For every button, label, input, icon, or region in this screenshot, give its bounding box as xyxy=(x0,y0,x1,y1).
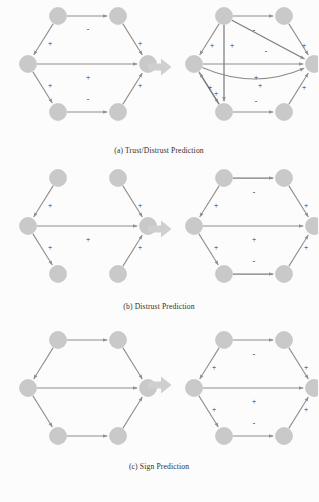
edge-sign-positive: + xyxy=(138,81,142,90)
panel-sign-prediction: -+++-++ (c) Sign Prediction xyxy=(0,324,318,502)
edge-arrowhead xyxy=(133,224,137,228)
graph-node[interactable] xyxy=(20,56,37,73)
graph-node[interactable] xyxy=(50,428,67,445)
signed-network-prediction-figure: -+++-++ -+++-++-+++ (a) Trust/Distrust P… xyxy=(0,0,318,502)
edge-sign-positive: + xyxy=(304,201,308,210)
graph-edge xyxy=(33,396,53,427)
edge-sign-positive: + xyxy=(86,73,90,82)
edge-sign-positive: + xyxy=(230,41,234,50)
edge-sign-negative: - xyxy=(87,25,90,34)
edge-sign-positive: + xyxy=(212,405,216,414)
graph-node[interactable] xyxy=(110,332,127,349)
edge-sign-positive: + xyxy=(212,363,216,372)
graph-node[interactable] xyxy=(110,428,127,445)
transition-arrow-icon xyxy=(148,376,172,394)
graph-node[interactable] xyxy=(276,266,293,283)
edge-sign-positive: + xyxy=(304,363,308,372)
panel-c-input-graph xyxy=(14,324,166,456)
graph-node[interactable] xyxy=(306,56,319,73)
edge-arrowhead xyxy=(269,338,273,342)
edge-sign-positive: + xyxy=(252,397,256,406)
graph-node[interactable] xyxy=(216,428,233,445)
graph-node[interactable] xyxy=(276,332,293,349)
edge-arrowhead xyxy=(133,62,137,66)
graph-node[interactable] xyxy=(306,218,319,235)
edge-sign-negative: - xyxy=(253,419,256,428)
graph-node[interactable] xyxy=(110,104,127,121)
panel-c-caption: (c) Sign Prediction xyxy=(0,462,318,471)
panel-b-graphs: +++++ +++++-- xyxy=(0,162,318,294)
edge-sign-positive: + xyxy=(138,243,142,252)
graph-node[interactable] xyxy=(186,56,203,73)
edge-arrowhead xyxy=(299,62,303,66)
edge-sign-negative: - xyxy=(87,95,90,104)
graph-edge xyxy=(34,348,54,379)
graph-node[interactable] xyxy=(276,104,293,121)
graph-node[interactable] xyxy=(50,170,67,187)
graph-node[interactable] xyxy=(276,8,293,25)
panel-a-graphs: -+++-++ -+++-++-+++ xyxy=(0,0,318,132)
graph-node[interactable] xyxy=(186,218,203,235)
edge-arrowhead xyxy=(269,434,273,438)
edge-arrowhead xyxy=(133,386,137,390)
graph-edge xyxy=(232,20,305,59)
edge-sign-positive: + xyxy=(214,201,218,210)
edge-sign-positive: + xyxy=(138,201,142,210)
edge-sign-positive: + xyxy=(48,81,52,90)
graph-node[interactable] xyxy=(50,266,67,283)
edge-sign-positive: + xyxy=(214,89,218,98)
edge-sign-negative: - xyxy=(253,188,256,197)
edge-sign-negative: - xyxy=(253,257,256,266)
panel-b-output-graph: +++++-- xyxy=(180,162,318,294)
edge-sign-positive: + xyxy=(304,243,308,252)
edge-arrowhead xyxy=(269,14,273,18)
graph-node[interactable] xyxy=(276,170,293,187)
edge-sign-negative: - xyxy=(253,350,256,359)
transition-arrow-icon xyxy=(148,58,172,76)
edge-sign-positive: + xyxy=(302,41,306,50)
graph-node[interactable] xyxy=(50,332,67,349)
edge-arrowhead xyxy=(103,434,107,438)
panel-c-graphs: -+++-++ xyxy=(0,324,318,446)
graph-edge xyxy=(123,397,143,428)
graph-node[interactable] xyxy=(20,380,37,397)
panel-a-input-graph: -+++-++ xyxy=(14,0,166,132)
edge-arrowhead xyxy=(222,97,226,101)
graph-node[interactable] xyxy=(20,218,37,235)
graph-node[interactable] xyxy=(110,8,127,25)
graph-node[interactable] xyxy=(216,170,233,187)
edge-sign-positive: + xyxy=(48,243,52,252)
graph-node[interactable] xyxy=(110,266,127,283)
graph-node[interactable] xyxy=(110,170,127,187)
edge-sign-positive: + xyxy=(138,39,142,48)
graph-node[interactable] xyxy=(50,8,67,25)
graph-node[interactable] xyxy=(216,266,233,283)
graph-node[interactable] xyxy=(50,104,67,121)
edge-sign-negative: - xyxy=(265,47,268,56)
edge-arrowhead xyxy=(103,338,107,342)
graph-edge xyxy=(200,348,220,379)
edge-sign-positive: + xyxy=(48,39,52,48)
edge-sign-positive: + xyxy=(208,83,212,92)
edge-sign-positive: + xyxy=(86,235,90,244)
edge-sign-negative: - xyxy=(255,97,258,106)
graph-node[interactable] xyxy=(216,8,233,25)
edge-sign-positive: + xyxy=(302,83,306,92)
edge-arrowhead xyxy=(103,14,107,18)
edge-sign-positive: + xyxy=(258,81,262,90)
graph-node[interactable] xyxy=(306,380,319,397)
edge-arrowhead xyxy=(299,224,303,228)
graph-node[interactable] xyxy=(186,380,203,397)
edge-arrowhead xyxy=(269,110,273,114)
edge-arrowhead xyxy=(269,176,273,180)
panel-distrust-prediction: +++++ +++++-- (b) Distrust Prediction xyxy=(0,162,318,324)
panel-c-output-graph: -+++-++ xyxy=(180,324,318,456)
edge-sign-positive: + xyxy=(210,41,214,50)
graph-edge xyxy=(200,24,220,55)
edge-sign-positive: + xyxy=(48,201,52,210)
graph-node[interactable] xyxy=(216,332,233,349)
graph-node[interactable] xyxy=(276,428,293,445)
graph-node[interactable] xyxy=(216,104,233,121)
graph-edge xyxy=(123,348,143,379)
edge-arrowhead xyxy=(269,272,273,276)
